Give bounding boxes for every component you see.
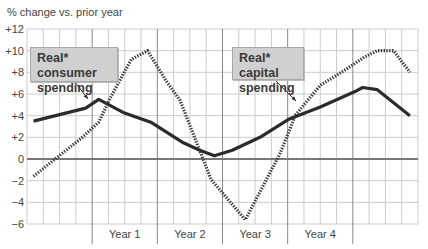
year-dividers [92, 29, 353, 244]
callout-label-line1: Real* capital [239, 51, 297, 81]
callout-label-line2: spending [239, 81, 297, 96]
line-chart: % change vs. prior year +12+10+8+6+4+20−… [0, 0, 428, 249]
callout-label-line2: spending [37, 81, 111, 96]
consumer-spending-line [34, 88, 410, 156]
capital-spending-callout: Real* capital spending [232, 47, 304, 80]
callout-label-line1: Real* consumer [37, 51, 111, 81]
plot-area [0, 0, 428, 249]
consumer-spending-callout: Real* consumer spending [30, 47, 118, 82]
